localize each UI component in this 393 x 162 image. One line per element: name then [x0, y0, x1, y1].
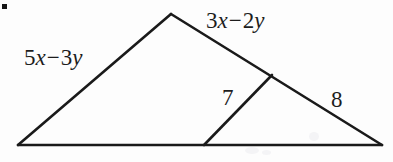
label-left-side: 5x−3y: [24, 46, 82, 69]
label-topright-operator: −: [228, 8, 243, 33]
label-cevian: 7: [222, 86, 234, 109]
cevian-segment: [204, 75, 272, 145]
triangle-left-side: [18, 14, 171, 145]
geometry-figure-canvas: 5x−3y 3x−2y 7 8: [0, 0, 393, 162]
label-top-right-side: 3x−2y: [206, 9, 264, 32]
label-topright-coeff2: 2: [243, 8, 255, 33]
label-topright-coeff1: 3: [206, 8, 218, 33]
label-left-coeff1: 5: [24, 45, 36, 70]
triangle-right-side: [171, 14, 382, 145]
label-topright-var1: x: [218, 8, 228, 33]
label-left-operator: −: [46, 45, 61, 70]
label-left-var1: x: [36, 45, 46, 70]
label-left-var2: y: [72, 45, 82, 70]
label-topright-var2: y: [254, 8, 264, 33]
label-lower-right-side: 8: [331, 88, 343, 111]
label-left-coeff2: 3: [61, 45, 73, 70]
triangle-diagram: [0, 0, 393, 162]
